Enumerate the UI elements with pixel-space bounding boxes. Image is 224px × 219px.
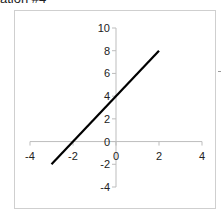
y-tick-label: 2: [104, 113, 110, 125]
y-tick-label: 8: [104, 45, 110, 57]
y-tick-label: -2: [100, 158, 110, 170]
x-tick-label: 0: [113, 150, 119, 162]
y-tick-label: 10: [98, 22, 110, 34]
x-tick-label: -4: [25, 150, 35, 162]
y-tick-label: 0: [104, 136, 110, 148]
y-axis: [112, 28, 116, 187]
y-tick-label: -4: [100, 181, 110, 193]
x-tick-labels: -4-2024: [25, 150, 205, 162]
x-tick-label: -2: [68, 150, 78, 162]
edge-mark: [218, 71, 221, 72]
line-chart: -4-2024 -4-20246810: [0, 0, 224, 219]
y-tick-label: 4: [104, 90, 110, 102]
y-tick-label: 6: [104, 67, 110, 79]
x-tick-label: 4: [199, 150, 205, 162]
x-tick-label: 2: [156, 150, 162, 162]
